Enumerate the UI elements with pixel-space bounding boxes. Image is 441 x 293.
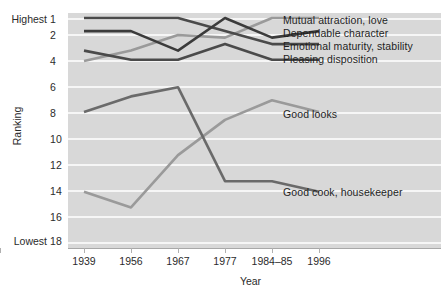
series-label-good-looks: Good looks bbox=[283, 108, 337, 120]
ranking-line-chart: Highest Lowest 1 2 4 6 8 10 12 14 16 18 … bbox=[0, 0, 441, 293]
series-label-pleasing-disposition: Pleasing disposition bbox=[283, 53, 378, 65]
series-label-emotional-maturity: Emotional maturity, stability bbox=[283, 40, 413, 52]
series-label-mutual-attraction: Mutual attraction, love bbox=[283, 14, 388, 26]
series-label-dependable-character: Dependable character bbox=[283, 27, 388, 39]
series-label-good-cook-housekeeper: Good cook, housekeeper bbox=[283, 186, 403, 198]
